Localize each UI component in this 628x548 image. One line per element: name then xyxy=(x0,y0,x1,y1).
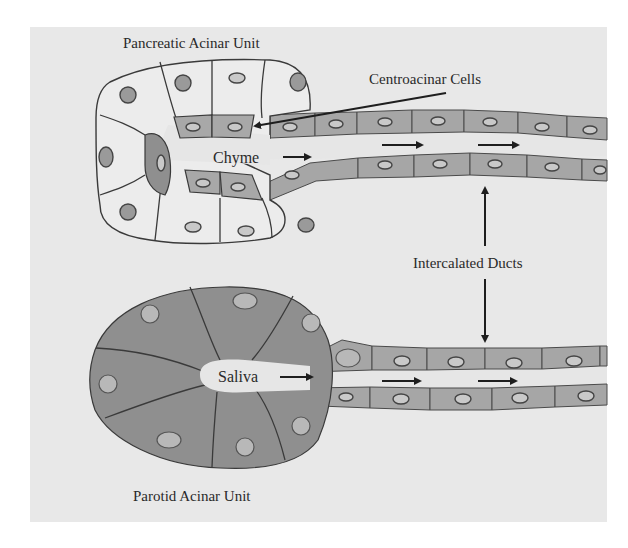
centroacinar-cells-label: Centroacinar Cells xyxy=(369,71,481,87)
intercalated-ducts-label: Intercalated Ducts xyxy=(413,255,523,271)
acinar-duct-diagram: Pancreatic Acinar Unit Centroacinar Cell… xyxy=(0,0,628,548)
parotid-duct xyxy=(300,340,607,410)
parotid-acinar-unit-label: Parotid Acinar Unit xyxy=(133,488,251,504)
chyme-label: Chyme xyxy=(213,149,259,167)
saliva-label: Saliva xyxy=(218,368,258,385)
pancreatic-acinar-unit-label: Pancreatic Acinar Unit xyxy=(123,35,260,51)
